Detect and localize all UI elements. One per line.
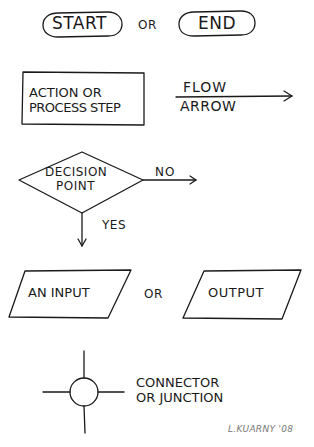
start-label: START	[52, 15, 107, 32]
flowchart-symbols-diagram: START OR END ACTION OR PROCESS STEP FLOW…	[0, 0, 314, 447]
end-label: END	[198, 15, 236, 32]
decision-label-line2: POINT	[56, 180, 95, 192]
process-label-line2: PROCESS STEP	[29, 101, 120, 114]
decision-label-line1: DECISION	[45, 166, 107, 178]
connector-label-line1: CONNECTOR	[136, 376, 219, 389]
or-label-terminators: OR	[138, 19, 157, 31]
flow-arrow-line	[176, 96, 292, 97]
input-label: AN INPUT	[28, 286, 90, 299]
connector-label-line2: OR JUNCTION	[136, 391, 223, 404]
flow-label-top: FLOW	[183, 80, 227, 94]
connector-circle-shape	[70, 378, 98, 406]
yes-label: YES	[102, 219, 126, 231]
author-signature: L.KUARNY '08	[228, 425, 293, 434]
flow-label-bottom: ARROW	[180, 99, 236, 113]
or-label-io: OR	[144, 288, 163, 300]
no-label: NO	[155, 166, 175, 178]
output-label: OUTPUT	[208, 286, 264, 299]
connector-line-bottom	[84, 406, 85, 433]
process-label-line1: ACTION OR	[29, 86, 102, 99]
